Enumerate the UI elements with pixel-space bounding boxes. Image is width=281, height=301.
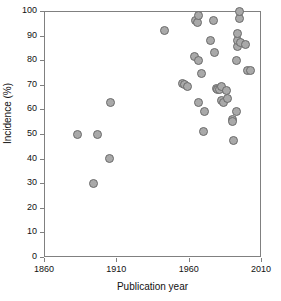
x-axis-ticks: 1860191019602010 [0, 0, 281, 301]
x-tick-label: 1960 [169, 264, 209, 274]
x-tick-label: 2010 [241, 264, 281, 274]
x-axis-title: Publication year [44, 281, 261, 292]
x-tick-mark [116, 258, 117, 262]
x-tick-label: 1860 [24, 264, 64, 274]
x-tick-label: 1910 [96, 264, 136, 274]
scatter-plot-figure: 0102030405060708090100 1860191019602010 … [0, 0, 281, 301]
x-tick-mark [189, 258, 190, 262]
x-tick-mark [261, 258, 262, 262]
x-tick-mark [44, 258, 45, 262]
y-axis-title: Incidence (%) [2, 66, 13, 162]
